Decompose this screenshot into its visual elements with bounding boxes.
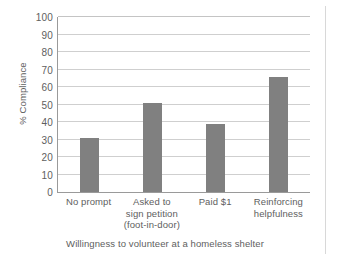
- y-axis-tick-label: 60: [41, 82, 53, 93]
- y-axis-tick-label: 20: [41, 152, 53, 163]
- y-axis-tick-label: 10: [41, 169, 53, 180]
- bar: [80, 138, 100, 192]
- y-axis-title: % Compliance: [17, 34, 28, 154]
- bar: [143, 103, 163, 192]
- category-label-line: Paid $1: [184, 196, 247, 208]
- x-axis-category-label: No prompt: [57, 196, 120, 208]
- bar-chart-figure: % Compliance 0102030405060708090100 No p…: [0, 0, 341, 260]
- y-axis-tick-label: 0: [47, 187, 53, 198]
- y-axis-tick-label: 70: [41, 64, 53, 75]
- y-axis-tick-label: 30: [41, 134, 53, 145]
- category-label-line: helpfulness: [247, 208, 310, 220]
- y-axis-tick-label: 50: [41, 99, 53, 110]
- x-axis-category-labels: No promptAsked tosign petition(foot-in-d…: [57, 196, 310, 240]
- category-label-line: Asked to: [120, 196, 183, 208]
- category-label-line: Reinforcing: [247, 196, 310, 208]
- bar: [269, 77, 289, 193]
- x-axis-category-label: Reinforcinghelpfulness: [247, 196, 310, 219]
- bar: [206, 124, 226, 192]
- plot-area: 0102030405060708090100: [57, 17, 310, 193]
- category-label-line: No prompt: [57, 196, 120, 208]
- category-label-line: sign petition: [120, 208, 183, 220]
- x-axis-category-label: Asked tosign petition(foot-in-door): [120, 196, 183, 231]
- bar-series: [58, 17, 310, 192]
- y-axis-tick-label: 90: [41, 29, 53, 40]
- y-axis-tick-label: 40: [41, 117, 53, 128]
- page-edge-artifact: [325, 6, 326, 254]
- y-axis-tick-label: 100: [36, 12, 53, 23]
- x-axis-category-label: Paid $1: [184, 196, 247, 208]
- category-label-line: (foot-in-door): [120, 219, 183, 231]
- x-axis-caption: Willingness to volunteer at a homeless s…: [0, 238, 330, 249]
- y-axis-tick-label: 80: [41, 47, 53, 58]
